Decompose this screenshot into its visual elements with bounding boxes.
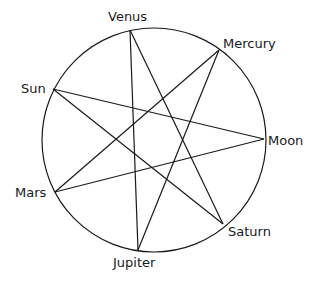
- label-jupiter: Jupiter: [112, 255, 156, 270]
- edge-venus-jupiter: [130, 30, 138, 250]
- star-edges: [53, 30, 264, 250]
- label-sun: Sun: [21, 81, 46, 96]
- label-moon: Moon: [268, 133, 303, 148]
- label-mars: Mars: [15, 185, 47, 200]
- label-venus: Venus: [108, 9, 147, 24]
- label-mercury: Mercury: [223, 36, 276, 51]
- heptagram-diagram: Venus Mercury Moon Saturn Jupiter Mars S…: [0, 0, 317, 283]
- outer-circle: [42, 28, 266, 252]
- label-saturn: Saturn: [228, 224, 271, 239]
- edge-mercury-jupiter: [138, 50, 219, 250]
